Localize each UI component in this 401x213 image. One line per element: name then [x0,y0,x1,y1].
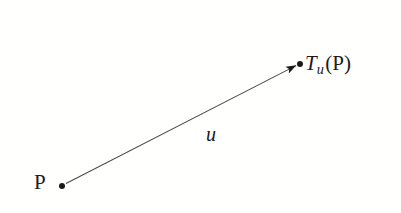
target-point-label-argument: (P) [325,51,351,75]
target-point-label-subscript: u [317,61,324,77]
translation-vector-arrow [66,66,296,184]
target-point-label-function: T [305,51,317,75]
target-point-label: Tu(P) [305,53,351,76]
source-point-dot [59,183,65,189]
vector-label: u [206,124,216,144]
source-point-label: P [34,172,46,193]
translation-vector-figure: P u Tu(P) [0,0,401,213]
vector-diagram-canvas [0,0,401,213]
target-point-dot [297,61,303,67]
